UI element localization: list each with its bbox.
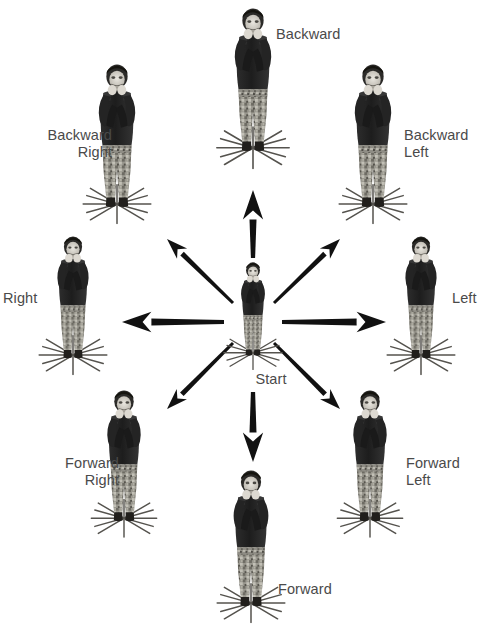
right-figure — [39, 236, 107, 374]
backward-left-figure — [339, 64, 407, 223]
arrow-up — [243, 190, 263, 258]
floor-star-marker — [337, 500, 402, 537]
label-left: Left — [452, 290, 477, 307]
movement-drill-diagram: StartBackwardBackward RightBackward Left… — [0, 0, 489, 627]
floor-star-marker — [387, 336, 455, 375]
label-forward-right: Forward Right — [24, 455, 119, 489]
label-backward-right: Backward Right — [17, 127, 112, 161]
arrow-down — [243, 392, 263, 462]
figure-group — [39, 8, 455, 622]
arrow-down-left — [162, 338, 238, 414]
floor-star-marker — [339, 185, 407, 224]
arrow-left — [122, 312, 224, 332]
start-figure — [224, 262, 282, 369]
floor-star-marker — [39, 336, 107, 375]
label-backward-left: Backward Left — [404, 127, 468, 161]
diagram-canvas — [0, 0, 489, 627]
arrow-right — [282, 312, 386, 332]
arrow-up-right — [269, 234, 345, 308]
label-center: Start — [236, 371, 306, 388]
label-forward-left: Forward Left — [406, 455, 460, 489]
floor-star-marker — [83, 185, 151, 224]
left-figure — [387, 236, 455, 374]
floor-star-marker — [91, 500, 156, 537]
label-right: Right — [3, 290, 37, 307]
forward-figure — [217, 470, 285, 622]
label-backward: Backward — [276, 26, 340, 43]
arrow-up-left — [162, 234, 238, 308]
forward-left-figure — [337, 390, 402, 536]
floor-star-marker — [224, 336, 282, 369]
floor-star-marker — [217, 127, 289, 168]
floor-star-marker — [217, 584, 285, 623]
label-forward: Forward — [278, 581, 332, 598]
